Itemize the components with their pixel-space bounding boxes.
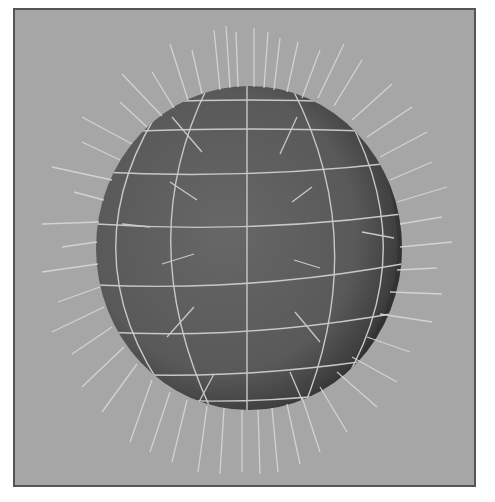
sphere-render (13, 8, 476, 487)
3d-viewport[interactable] (13, 8, 476, 487)
